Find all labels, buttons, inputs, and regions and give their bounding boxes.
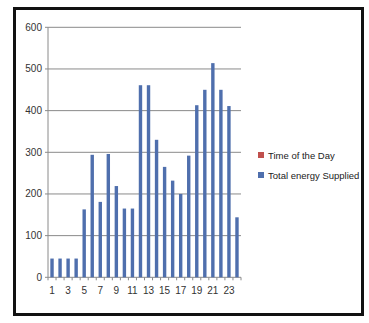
bar xyxy=(187,156,190,278)
y-tick-label: 600 xyxy=(25,22,42,33)
legend: Time of the Day Total energy Supplied xyxy=(258,145,359,185)
y-tick-label: 200 xyxy=(25,188,42,199)
bar xyxy=(82,209,85,277)
x-tick-label: 1 xyxy=(49,285,55,296)
legend-label: Total energy Supplied xyxy=(268,170,359,181)
bar xyxy=(211,63,214,277)
x-tick-label: 13 xyxy=(143,285,155,296)
legend-item-time-of-day: Time of the Day xyxy=(258,145,359,165)
bar xyxy=(123,209,126,278)
x-tick-label: 17 xyxy=(175,285,187,296)
x-tick-label: 23 xyxy=(223,285,235,296)
bar xyxy=(179,194,182,277)
y-tick-label: 100 xyxy=(25,230,42,241)
bar xyxy=(131,209,134,278)
bar xyxy=(163,167,166,277)
legend-item-total-energy: Total energy Supplied xyxy=(258,165,359,185)
bar xyxy=(66,259,69,278)
x-tick-label: 21 xyxy=(207,285,219,296)
bar xyxy=(195,105,198,277)
x-tick-label: 9 xyxy=(114,285,120,296)
x-tick-label: 19 xyxy=(191,285,203,296)
bar xyxy=(58,259,61,278)
bar xyxy=(139,85,142,277)
bar xyxy=(227,106,230,277)
bar xyxy=(235,217,238,277)
y-tick-label: 0 xyxy=(36,272,42,283)
bar xyxy=(107,154,110,277)
y-tick-label: 500 xyxy=(25,63,42,74)
x-tick-label: 5 xyxy=(81,285,87,296)
x-tick-label: 15 xyxy=(159,285,171,296)
bar xyxy=(74,259,77,278)
bar xyxy=(115,186,118,277)
bar xyxy=(171,181,174,278)
legend-swatch-red xyxy=(258,152,264,158)
bar xyxy=(50,259,53,278)
legend-label: Time of the Day xyxy=(268,150,335,161)
y-tick-label: 300 xyxy=(25,147,42,158)
bar xyxy=(99,202,102,277)
bar xyxy=(155,140,158,277)
bar xyxy=(91,155,94,277)
bar xyxy=(219,90,222,277)
legend-swatch-blue xyxy=(258,172,264,178)
bar xyxy=(147,85,150,277)
x-tick-label: 3 xyxy=(65,285,71,296)
bar xyxy=(203,90,206,277)
x-tick-label: 11 xyxy=(127,285,138,296)
y-tick-label: 400 xyxy=(25,105,42,116)
x-tick-label: 7 xyxy=(97,285,103,296)
